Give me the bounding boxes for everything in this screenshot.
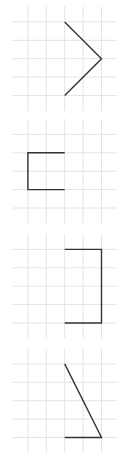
panel-triangle-open: [13, 349, 117, 453]
panel-chevron-right: [13, 7, 117, 111]
panel-bracket-left: [13, 119, 117, 223]
diagram-canvas: [0, 0, 128, 476]
panel-bracket-right: [13, 234, 117, 338]
